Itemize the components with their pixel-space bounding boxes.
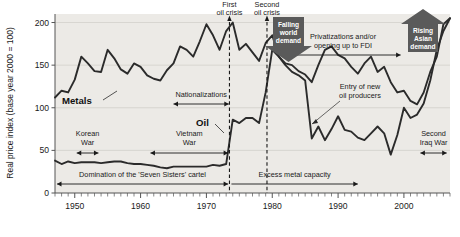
span-label-second-iraq-war-line1: Second	[421, 129, 446, 138]
span-label-second-iraq-war-line2: Iraq War	[420, 138, 448, 147]
span-annotation-seven-sisters-cartel: Domination of the 'Seven Sisters' cartel	[57, 170, 228, 186]
span-label-privatizations-fdi-line2: opening up to FDI	[314, 41, 372, 50]
span-label-excess-metal-capacity-line1: Excess metal capacity	[259, 170, 332, 179]
span-label-korean-war-line2: War	[81, 138, 95, 147]
x-axis: 195019601970198019902000	[55, 193, 450, 211]
callout-entry-oil-producers-line1: Entry of new	[340, 82, 381, 91]
span-label-vietnam-war-line1: Vietnam	[176, 129, 203, 138]
falling-world-demand-line3: demand	[276, 37, 301, 44]
series-label-oil: Oil	[196, 117, 209, 128]
span-label-nationalizations-line1: Nationalizations	[175, 90, 227, 99]
y-tick-label-150: 150	[35, 60, 50, 70]
falling-world-demand-line2: world	[279, 29, 298, 36]
span-label-privatizations-fdi-line1: Privatizations and/or	[310, 32, 377, 41]
y-axis: 050100150200	[35, 14, 55, 198]
rising-asian-demand-line2: Asian	[414, 35, 432, 42]
rising-asian-demand-line3: demand	[410, 43, 435, 50]
span-label-korean-war-line1: Korean	[76, 129, 100, 138]
series-label-metals: Metals	[62, 95, 92, 106]
chart-canvas: 050100150200 195019601970198019902000 Re…	[0, 0, 460, 237]
y-tick-label-200: 200	[35, 18, 50, 28]
event-label-second-oil-crisis-line2: oil crisis	[254, 8, 280, 17]
real-price-index-chart: 050100150200 195019601970198019902000 Re…	[0, 0, 460, 237]
y-tick-label-100: 100	[35, 103, 50, 113]
x-tick-label-2000: 2000	[394, 201, 413, 211]
x-tick-label-1950: 1950	[65, 201, 84, 211]
y-tick-label-0: 0	[44, 188, 49, 198]
callout-entry-oil-producers-line2: oil producers	[339, 91, 381, 100]
span-annotation-nationalizations: Nationalizations	[174, 90, 229, 106]
y-tick-label-50: 50	[39, 145, 49, 155]
x-tick-label-1970: 1970	[197, 201, 216, 211]
span-label-seven-sisters-cartel-line1: Domination of the 'Seven Sisters' cartel	[79, 170, 206, 179]
x-tick-label-1980: 1980	[263, 201, 282, 211]
span-label-vietnam-war-line2: War	[183, 138, 197, 147]
event-label-first-oil-crisis-line2: oil crisis	[216, 8, 242, 17]
plot-background	[55, 14, 450, 193]
y-axis-title: Real price index (base year 2000 = 100)	[5, 27, 15, 179]
falling-world-demand-line1: Falling	[278, 21, 299, 29]
x-tick-label-1990: 1990	[329, 201, 348, 211]
rising-asian-demand-line1: Rising	[413, 27, 433, 35]
x-tick-label-1960: 1960	[131, 201, 150, 211]
